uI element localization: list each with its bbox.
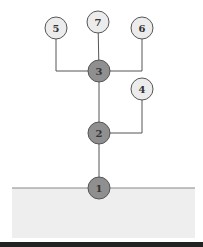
edges xyxy=(56,22,142,188)
node-5: 5 xyxy=(45,17,67,39)
node-label: 6 xyxy=(139,23,146,34)
bottom-bar xyxy=(0,242,203,247)
node-1: 1 xyxy=(88,177,110,199)
tree-diagram: 5 7 6 3 4 2 1 xyxy=(0,0,203,247)
node-label: 4 xyxy=(139,84,146,95)
node-6: 6 xyxy=(131,17,153,39)
node-7: 7 xyxy=(87,11,109,33)
node-label: 1 xyxy=(96,183,103,194)
node-3: 3 xyxy=(88,60,110,82)
node-4: 4 xyxy=(131,78,153,100)
node-label: 5 xyxy=(53,23,60,34)
node-label: 3 xyxy=(96,66,103,77)
node-label: 7 xyxy=(95,17,102,28)
node-label: 2 xyxy=(96,128,103,139)
node-2: 2 xyxy=(88,122,110,144)
